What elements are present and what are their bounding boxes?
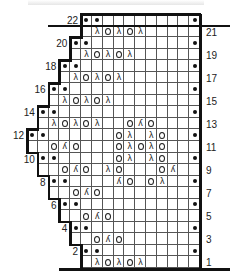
chart-cell bbox=[135, 164, 146, 176]
chart-cell bbox=[157, 26, 168, 38]
chart-cell bbox=[135, 176, 146, 188]
yarn-over-icon bbox=[116, 166, 122, 173]
purl-dot-icon bbox=[63, 64, 67, 68]
chart-cell bbox=[49, 95, 60, 107]
chart-symbol bbox=[49, 176, 60, 188]
chart-cell bbox=[135, 129, 146, 141]
chart-cell bbox=[157, 187, 168, 199]
chart-symbol: λ bbox=[135, 26, 146, 38]
chart-symbol: λ bbox=[114, 72, 125, 84]
chart-symbol: ʎ bbox=[103, 233, 114, 245]
chart-border-left-step bbox=[69, 222, 72, 246]
chart-border-left-step bbox=[58, 60, 61, 84]
chart-symbol: ʎ bbox=[135, 118, 146, 130]
row-label-left: 18 bbox=[45, 61, 56, 72]
chart-cell bbox=[157, 49, 168, 61]
purl-dot-icon bbox=[41, 110, 45, 114]
chart-symbol: λ bbox=[49, 118, 60, 130]
chart-cell bbox=[157, 72, 168, 84]
chart-cell bbox=[157, 199, 168, 211]
chart-cell bbox=[103, 37, 114, 49]
chart-symbol bbox=[81, 210, 92, 222]
chart-cell bbox=[135, 72, 146, 84]
chart-cell bbox=[146, 164, 157, 176]
chart-cell bbox=[92, 199, 103, 211]
chart-symbol bbox=[146, 176, 157, 188]
chart-symbol: λ bbox=[103, 164, 114, 176]
chart-cell bbox=[135, 210, 146, 222]
row-label-right: 9 bbox=[206, 165, 212, 176]
chart-cell bbox=[81, 153, 92, 165]
left-decrease-icon: λ bbox=[117, 27, 122, 36]
chart-cell bbox=[81, 199, 92, 211]
purl-dot-icon bbox=[193, 202, 197, 206]
chart-cell bbox=[81, 129, 92, 141]
chart-cell bbox=[168, 26, 179, 38]
chart-symbol: λ bbox=[124, 49, 135, 61]
chart-symbol bbox=[114, 233, 125, 245]
chart-symbol bbox=[124, 26, 135, 38]
chart-border-left-step bbox=[26, 129, 29, 153]
chart-cell bbox=[70, 83, 81, 95]
chart-cell bbox=[178, 256, 189, 268]
chart-symbol bbox=[114, 164, 125, 176]
purl-dot-icon bbox=[63, 179, 67, 183]
chart-cell bbox=[178, 26, 189, 38]
yarn-over-icon bbox=[73, 189, 79, 196]
chart-cell bbox=[124, 60, 135, 72]
chart-cell bbox=[135, 187, 146, 199]
chart-cell bbox=[135, 49, 146, 61]
chart-cell bbox=[135, 199, 146, 211]
right-decrease-icon: ʎ bbox=[73, 165, 78, 174]
chart-cell bbox=[103, 129, 114, 141]
left-decrease-icon: λ bbox=[73, 73, 78, 82]
chart-cell bbox=[114, 199, 125, 211]
right-decrease-icon: ʎ bbox=[138, 119, 143, 128]
chart-border-left-step bbox=[69, 37, 72, 61]
chart-cell bbox=[168, 210, 179, 222]
chart-cell bbox=[59, 72, 70, 84]
purl-dot-icon bbox=[84, 41, 88, 45]
yarn-over-icon bbox=[73, 97, 79, 104]
chart-cell bbox=[124, 233, 135, 245]
chart-symbol: λ bbox=[103, 49, 114, 61]
chart-cell bbox=[81, 106, 92, 118]
chart-cell bbox=[157, 233, 168, 245]
chart-cell bbox=[59, 129, 70, 141]
chart-cell bbox=[157, 118, 168, 130]
chart-cell bbox=[135, 83, 146, 95]
chart-symbol bbox=[114, 49, 125, 61]
yarn-over-icon bbox=[127, 259, 133, 266]
chart-cell bbox=[178, 129, 189, 141]
chart-symbol: λ bbox=[146, 153, 157, 165]
yarn-over-icon bbox=[148, 178, 154, 185]
chart-symbol bbox=[70, 141, 81, 153]
purl-dot-icon bbox=[95, 18, 99, 22]
chart-cell bbox=[178, 118, 189, 130]
purl-dot-icon bbox=[74, 202, 78, 206]
chart-cell bbox=[178, 176, 189, 188]
chart-cell bbox=[114, 95, 125, 107]
chart-cell bbox=[178, 233, 189, 245]
left-decrease-icon: λ bbox=[127, 50, 132, 59]
chart-symbol: ʎ bbox=[168, 164, 179, 176]
left-decrease-icon: λ bbox=[95, 73, 100, 82]
chart-cell bbox=[114, 106, 125, 118]
chart-border-left-step bbox=[48, 176, 51, 200]
chart-cell bbox=[168, 187, 179, 199]
chart-cell bbox=[146, 49, 157, 61]
right-decrease-icon: ʎ bbox=[63, 142, 68, 151]
chart-cell bbox=[81, 26, 92, 38]
chart-symbol: λ bbox=[70, 72, 81, 84]
chart-cell bbox=[124, 95, 135, 107]
chart-cell bbox=[178, 72, 189, 84]
left-decrease-icon: λ bbox=[95, 27, 100, 36]
row-label-left: 14 bbox=[24, 107, 35, 118]
purl-dot-icon bbox=[193, 18, 197, 22]
chart-symbol bbox=[59, 164, 70, 176]
left-decrease-icon: λ bbox=[95, 258, 100, 267]
chart-symbol bbox=[92, 233, 103, 245]
chart-cell bbox=[157, 210, 168, 222]
chart-symbol bbox=[81, 222, 92, 234]
chart-cell bbox=[92, 164, 103, 176]
